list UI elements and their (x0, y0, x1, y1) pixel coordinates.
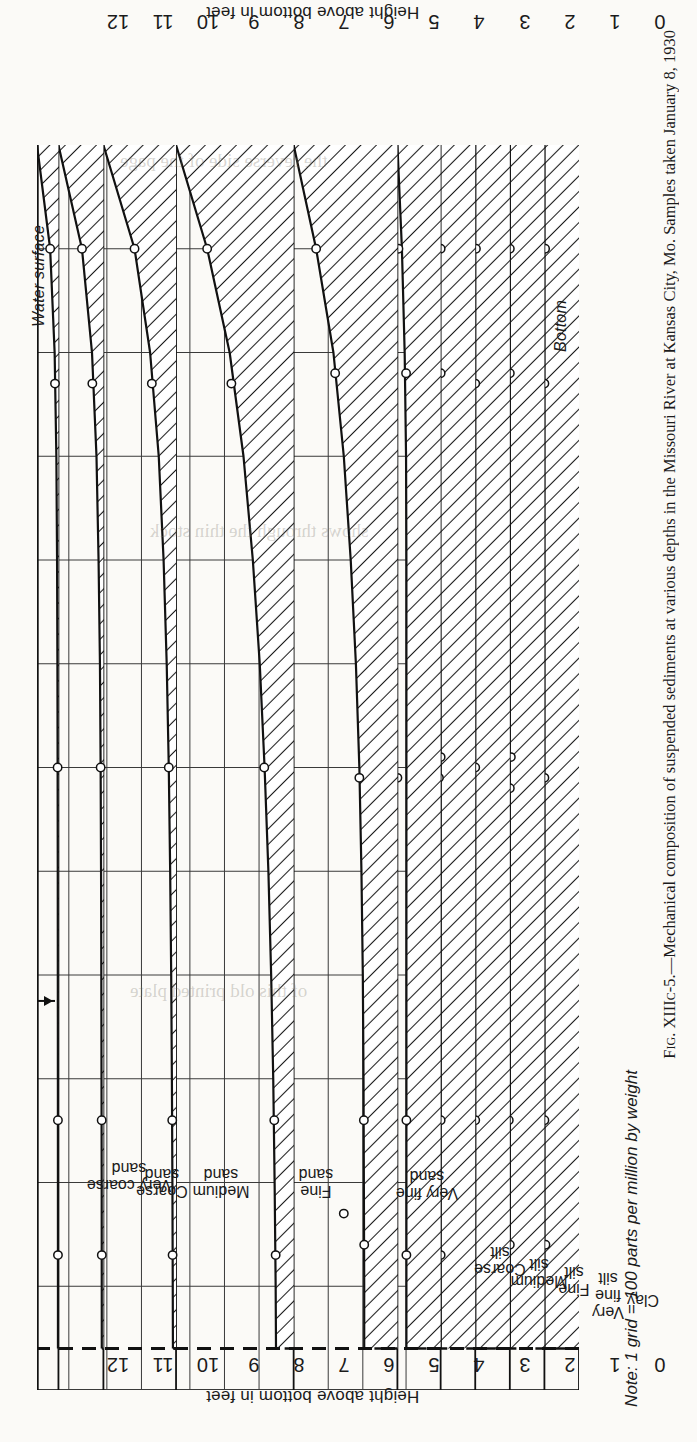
y-tick-3: 3 (519, 12, 530, 32)
y-tick-7: 7 (338, 1355, 349, 1375)
y-tick-8: 8 (293, 1355, 304, 1375)
y-tick-9: 9 (248, 1355, 259, 1375)
y-tick-12: 12 (107, 12, 129, 32)
category-label-very-fine-sand: Very fine sand (372, 1168, 482, 1202)
y-tick-5: 5 (429, 1355, 440, 1375)
figure-note: Note: 1 grid = 100 parts per million by … (622, 1070, 642, 1407)
y-tick-1: 1 (609, 12, 620, 32)
plot-rotated-container (0, 0, 697, 1442)
y-tick-5: 5 (429, 12, 440, 32)
y-axis-title-top: Height above bottom in feet (206, 2, 419, 22)
figure-scan: 0123456789101112 Height above bottom in … (0, 0, 697, 1442)
figure-caption-text: Mechanical composition of suspended sedi… (660, 30, 679, 958)
bleedthrough-text-2: shows through the thin stock (150, 520, 369, 542)
figure-caption-label: Fig. XIIIc-5. (660, 974, 679, 1058)
bleedthrough-text-3: of this old printed plate (130, 980, 307, 1002)
y-axis-ticks-bottom: 0123456789101112 (0, 1355, 697, 1385)
y-tick-12: 12 (107, 1355, 129, 1375)
y-tick-10: 10 (197, 1355, 219, 1375)
figure-caption: Fig. XIIIc-5.—Mechanical composition of … (660, 30, 680, 1059)
plot-area (37, 145, 579, 1390)
y-axis-title-bottom: Height above bottom in feet (206, 1386, 419, 1406)
water-surface-annotation: Water surface (30, 225, 48, 327)
sediment-profile-chart (37, 145, 579, 1390)
y-tick-0: 0 (654, 12, 665, 32)
category-label-coarse-silt: Coarse silt (445, 1244, 555, 1278)
y-tick-2: 2 (564, 1355, 575, 1375)
figure-caption-dash: — (660, 958, 679, 975)
y-tick-2: 2 (564, 12, 575, 32)
bleedthrough-text-1: the reverse side of the page (120, 150, 327, 172)
y-tick-6: 6 (383, 1355, 394, 1375)
y-tick-11: 11 (153, 1355, 174, 1375)
y-tick-0: 0 (654, 1355, 665, 1375)
y-tick-4: 4 (474, 12, 485, 32)
y-tick-1: 1 (609, 1355, 620, 1375)
category-label-fine-sand: Fine sand (261, 1166, 371, 1200)
y-tick-4: 4 (474, 1355, 485, 1375)
y-tick-3: 3 (519, 1355, 530, 1375)
category-label-very-coarse-sand: Very coarse sand (74, 1160, 184, 1194)
bottom-annotation: Bottom (552, 300, 570, 352)
y-tick-11: 11 (153, 12, 174, 32)
